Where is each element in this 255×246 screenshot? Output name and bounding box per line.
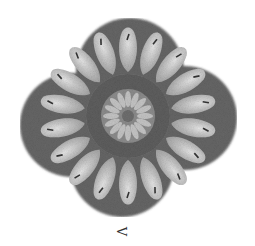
- rosette-segment: [125, 91, 131, 107]
- rosette-segment: [125, 125, 131, 141]
- specimen-illustration: [0, 0, 255, 246]
- figure-label: V: [114, 227, 129, 236]
- rosette-segment: [137, 113, 153, 119]
- central-disc: [86, 74, 170, 158]
- rosette-segment: [103, 113, 119, 119]
